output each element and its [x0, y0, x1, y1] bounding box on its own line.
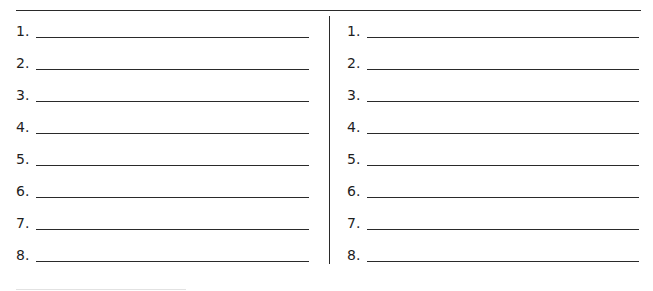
answer-blank-line[interactable]	[367, 37, 639, 38]
answer-blank-line[interactable]	[367, 69, 639, 70]
answer-blank-line[interactable]	[36, 101, 309, 102]
item-number: 7.	[16, 215, 29, 231]
item-number: 4.	[347, 119, 360, 135]
item-number: 5.	[16, 151, 29, 167]
bottom-rule	[16, 289, 186, 290]
item-number: 1.	[347, 23, 360, 39]
answer-blank-line[interactable]	[36, 165, 309, 166]
answer-blank-line[interactable]	[36, 133, 309, 134]
answer-blank-line[interactable]	[367, 133, 639, 134]
item-number: 6.	[16, 183, 29, 199]
answer-blank-line[interactable]	[36, 261, 309, 262]
answer-blank-line[interactable]	[36, 69, 309, 70]
answer-blank-line[interactable]	[367, 165, 639, 166]
column-divider	[329, 16, 330, 264]
item-number: 2.	[16, 55, 29, 71]
answer-blank-line[interactable]	[367, 101, 639, 102]
item-number: 8.	[16, 247, 29, 263]
item-number: 2.	[347, 55, 360, 71]
answer-blank-line[interactable]	[367, 197, 639, 198]
answer-blank-line[interactable]	[36, 229, 309, 230]
answer-blank-line[interactable]	[36, 197, 309, 198]
item-number: 3.	[16, 87, 29, 103]
answer-blank-line[interactable]	[367, 261, 639, 262]
answer-blank-line[interactable]	[36, 37, 309, 38]
answer-blank-line[interactable]	[367, 229, 639, 230]
item-number: 4.	[16, 119, 29, 135]
item-number: 5.	[347, 151, 360, 167]
item-number: 3.	[347, 87, 360, 103]
top-rule	[16, 10, 641, 11]
item-number: 1.	[16, 23, 29, 39]
item-number: 8.	[347, 247, 360, 263]
item-number: 6.	[347, 183, 360, 199]
item-number: 7.	[347, 215, 360, 231]
